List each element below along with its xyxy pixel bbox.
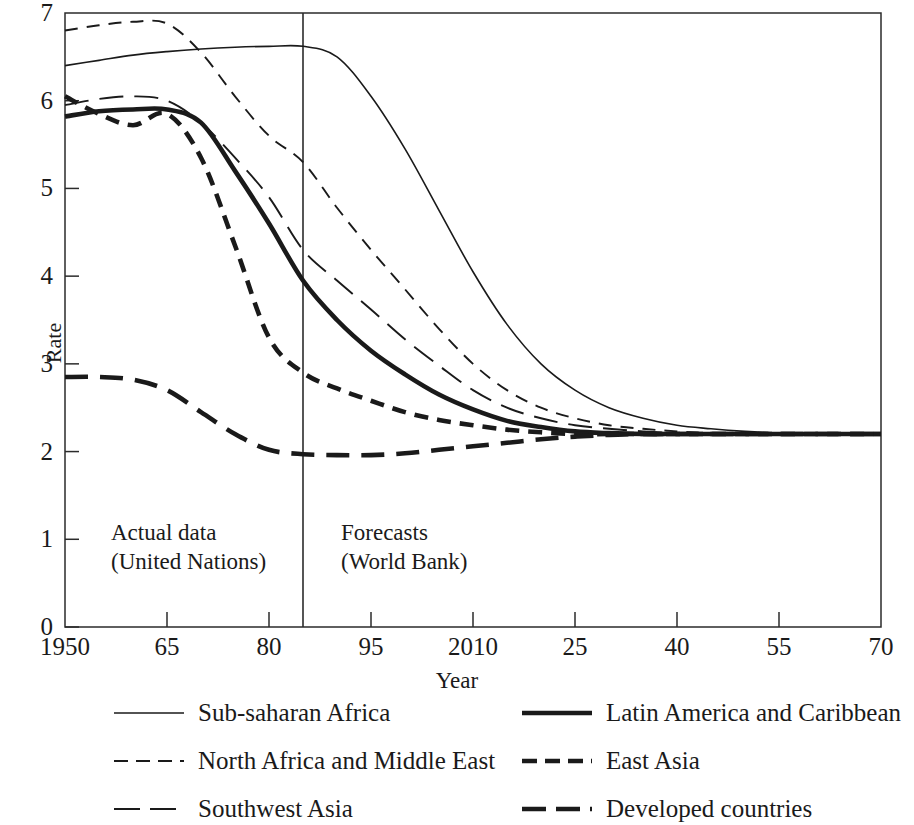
- legend-label: North Africa and Middle East: [198, 744, 495, 778]
- series-line-developed-countries: [65, 377, 881, 455]
- x-tick-label: 95: [316, 634, 426, 659]
- x-axis-label: Year: [0, 668, 914, 694]
- y-tick-label: 1: [13, 526, 53, 551]
- annotation-forecast-line2: (World Bank): [341, 547, 468, 576]
- series-layer: [65, 21, 881, 456]
- y-tick-label: 3: [13, 351, 53, 376]
- annotation-forecast-line1: Forecasts: [341, 518, 468, 547]
- annotation-actual-data: Actual data (United Nations): [111, 518, 266, 576]
- legend-label: Developed countries: [606, 792, 812, 825]
- x-tick-label: 2010: [418, 634, 528, 659]
- legend-label: East Asia: [606, 744, 700, 778]
- series-line-southwest-asia: [65, 96, 881, 434]
- x-tick-label: 70: [826, 634, 914, 659]
- figure: Rate 01234567 1950658095201025405570 Act…: [0, 0, 914, 690]
- x-tick-label: 25: [520, 634, 630, 659]
- series-line-east-asia: [65, 96, 881, 434]
- plot-area: [0, 0, 914, 690]
- annotation-forecasts: Forecasts (World Bank): [341, 518, 468, 576]
- legend-swatch-dashed-thick-short: [518, 744, 596, 778]
- chart-page: Rate 01234567 1950658095201025405570 Act…: [0, 0, 914, 825]
- legend-swatch-dashed-thin-long: [110, 792, 188, 825]
- legend: Sub-saharan Africa North Africa and Midd…: [0, 692, 914, 825]
- x-tick-label: 1950: [10, 634, 120, 659]
- x-tick-label: 80: [214, 634, 324, 659]
- x-tick-label: 40: [622, 634, 732, 659]
- series-line-sub-saharan-africa: [65, 46, 881, 435]
- series-line-north-africa-and-middle-east: [65, 21, 881, 434]
- x-tick-label: 55: [724, 634, 834, 659]
- legend-swatch-dashed-thick-long: [518, 792, 596, 825]
- x-tick-label: 65: [112, 634, 222, 659]
- y-tick-label: 6: [13, 88, 53, 113]
- annotation-actual-line1: Actual data: [111, 518, 266, 547]
- y-tick-label: 7: [13, 0, 53, 25]
- annotation-actual-line2: (United Nations): [111, 547, 266, 576]
- legend-swatch-solid-thin: [110, 696, 188, 730]
- legend-label: Southwest Asia: [198, 792, 353, 825]
- y-tick-label: 5: [13, 175, 53, 200]
- legend-swatch-dashed-thin-short: [110, 744, 188, 778]
- legend-swatch-solid-thick: [518, 696, 596, 730]
- legend-label: Sub-saharan Africa: [198, 696, 390, 730]
- legend-label: Latin America and Caribbean: [606, 696, 901, 730]
- y-tick-label: 4: [13, 263, 53, 288]
- y-tick-label: 2: [13, 439, 53, 464]
